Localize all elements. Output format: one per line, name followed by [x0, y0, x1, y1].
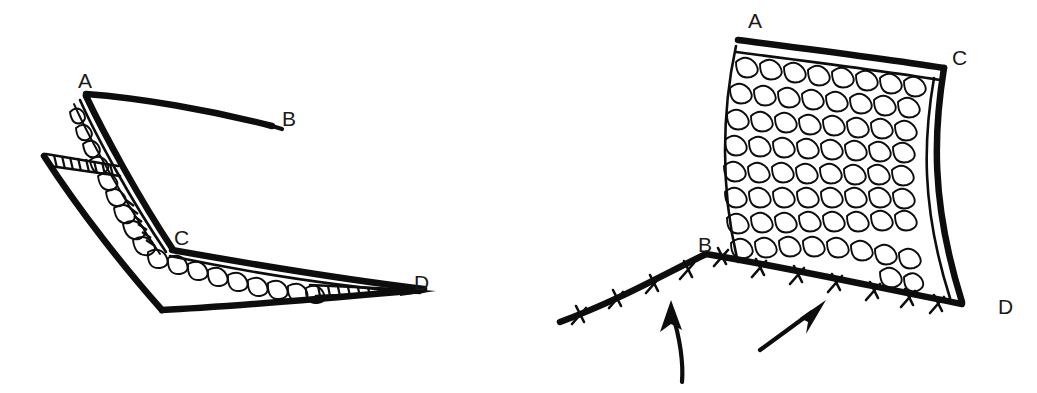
- direction-arrow-right: [760, 300, 826, 350]
- label-b-left: B: [282, 108, 296, 129]
- direction-arrow-left: [660, 300, 682, 382]
- label-a-right: A: [748, 10, 762, 31]
- edge-a-to-b: [86, 94, 272, 126]
- surgical-flap-figure: A B C D A C B D: [0, 0, 1037, 393]
- label-b-right: B: [698, 234, 712, 255]
- figure-canvas: [0, 0, 1037, 393]
- label-d-right: D: [998, 296, 1013, 317]
- label-a-left: A: [78, 70, 92, 91]
- label-c-left: C: [174, 227, 189, 248]
- label-c-right: C: [952, 47, 967, 68]
- right-panel-group: [560, 40, 962, 382]
- label-d-left: D: [414, 272, 429, 293]
- left-panel-group: [44, 94, 436, 310]
- edge-b-tip: [272, 126, 282, 129]
